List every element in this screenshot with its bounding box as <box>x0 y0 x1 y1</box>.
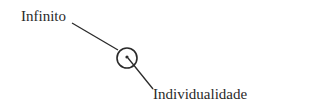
connector-line-top <box>72 23 118 50</box>
label-individualidade: Individualidade <box>153 87 247 102</box>
connector-line-bottom <box>128 58 153 89</box>
